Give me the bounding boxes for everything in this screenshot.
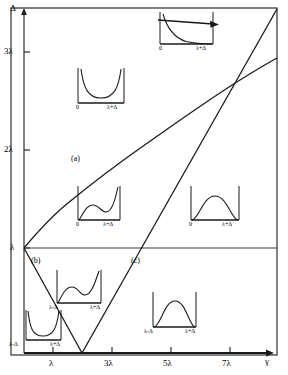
inset-hump-lambda [153,292,196,327]
inset-hump-lambda-x-start-label: λ-Δ [144,328,153,334]
y-tick-label-3lambda: 3λ [4,46,13,56]
inset-well-lambda-x-end-label: λ+Δ [50,341,60,347]
y-axis-arrowhead [21,8,27,15]
inset-well-lambda [26,310,61,340]
inset-s-curve-zero-x-end-label: λ+Δ [103,221,113,227]
phase-diagram-svg [0,0,288,375]
y-tick-label-2lambda: 2λ [4,144,13,154]
inset-s-curve-zero-x-start-label: 0 [76,221,79,227]
y-tick-label-lambda: λ [10,242,14,252]
y-axis-label: Δ [10,3,16,13]
x-tick-label-7lambda: 7λ [222,358,231,368]
curve-label-c: (c) [131,256,140,265]
inset-s-curve-zero-curve [79,187,118,220]
inset-decreasing-curve [163,14,212,44]
phase-diagram-figure: Δ γ λ 2λ 3λ λ 3λ 5λ 7λ (a) (b) (c) 0 λ+Δ… [0,0,288,375]
inset-well-lambda-x-start-label: λ-Δ [9,341,18,347]
inset-decreasing-x-start-label: 0 [159,45,162,51]
x-tick-label-3lambda: 3λ [104,358,113,368]
inset-well [78,68,124,103]
inset-s-curve-lambda-x-start-label: λ-Δ [49,304,58,310]
inset-s-curve-zero [78,186,120,220]
inset-decreasing-x-end-label: λ+Δ [196,45,206,51]
inset-well-curve [81,69,121,98]
inset-well-x-end-label: λ+Δ [107,104,117,110]
inset-hump-zero [191,186,239,220]
inset-decreasing [160,12,213,44]
inset-hump-zero-x-start-label: 0 [189,221,192,227]
inset-s-curve-lambda-x-end-label: λ+Δ [90,304,100,310]
curve-label-a: (a) [71,154,80,163]
inset-hump-lambda-x-end-label: λ+Δ [185,328,195,334]
x-tick-label-lambda: λ [49,358,53,368]
plot-frame [11,8,277,355]
inset-hump-lambda-curve [154,301,195,327]
curve-c [82,9,277,353]
inset-hump-zero-curve [192,196,238,220]
x-tick-label-5lambda: 5λ [163,358,172,368]
inset-hump-zero-x-end-label: λ+Δ [222,221,232,227]
inset-s-curve-lambda-curve [58,271,99,303]
callout-arrow-head [210,21,219,28]
curve-label-b: (b) [31,256,40,265]
x-axis-label: γ [265,356,269,366]
inset-well-x-start-label: 0 [76,104,79,110]
inset-well-lambda-curve [28,311,59,336]
inset-s-curve-lambda [57,270,101,303]
